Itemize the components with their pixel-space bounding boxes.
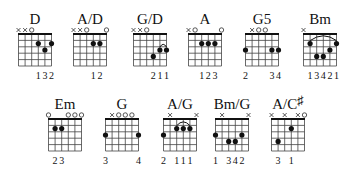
- finger-dot-icon: [243, 47, 248, 52]
- finger-numbers: 13421: [292, 71, 348, 83]
- finger-numbers: 1342: [204, 156, 260, 168]
- finger-number: 1: [287, 156, 295, 166]
- muted-string-icon: [302, 28, 306, 32]
- finger-dot-icon: [308, 41, 313, 46]
- finger-number: 2: [48, 71, 56, 81]
- finger-dot-icon: [276, 47, 281, 52]
- open-string-icon: [193, 28, 197, 32]
- finger-dot-icon: [164, 47, 169, 52]
- fretboard-grid: [37, 85, 93, 165]
- finger-dot-icon: [36, 41, 41, 46]
- fretboard-grid: [122, 0, 178, 80]
- finger-number: 3: [211, 71, 219, 81]
- chord-d: D132: [7, 0, 63, 80]
- open-string-icon: [30, 28, 34, 32]
- muted-string-icon: [23, 28, 27, 32]
- muted-string-icon: [78, 28, 82, 32]
- open-string-icon: [46, 113, 50, 117]
- finger-numbers: 34: [94, 156, 150, 168]
- finger-dot-icon: [53, 126, 58, 131]
- finger-dot-icon: [334, 41, 339, 46]
- fretboard-grid: [7, 0, 63, 80]
- muted-string-icon: [72, 28, 76, 32]
- finger-number: 2: [96, 71, 104, 81]
- chord-bm-g: Bm/G1342: [204, 85, 260, 165]
- open-string-icon: [130, 113, 134, 117]
- fretboard-grid: [292, 0, 348, 80]
- finger-dot-icon: [97, 41, 102, 46]
- chord-g5: G5234: [234, 0, 290, 80]
- fretboard-grid: [62, 0, 118, 80]
- finger-numbers: 12: [62, 71, 118, 83]
- finger-dot-icon: [226, 139, 231, 144]
- finger-numbers: 234: [234, 71, 290, 83]
- finger-number: 3: [102, 156, 110, 166]
- finger-dot-icon: [157, 47, 162, 52]
- finger-numbers: 211: [122, 71, 178, 83]
- open-string-icon: [123, 113, 127, 117]
- finger-number: 4: [135, 156, 143, 166]
- muted-string-icon: [247, 113, 251, 117]
- finger-dot-icon: [174, 126, 179, 131]
- muted-string-icon: [270, 113, 274, 117]
- finger-numbers: 31: [260, 156, 316, 168]
- finger-number: 1: [212, 156, 220, 166]
- finger-dot-icon: [161, 132, 166, 137]
- fretboard-grid: [177, 0, 233, 80]
- chord-a-d: A/D12: [62, 0, 118, 80]
- finger-dot-icon: [136, 132, 141, 137]
- finger-dot-icon: [233, 139, 238, 144]
- finger-dot-icon: [289, 126, 294, 131]
- muted-string-icon: [138, 28, 142, 32]
- open-string-icon: [117, 113, 121, 117]
- finger-number: 1: [333, 71, 341, 81]
- fretboard-grid: [94, 85, 150, 165]
- finger-dot-icon: [59, 126, 64, 131]
- finger-dot-icon: [213, 132, 218, 137]
- finger-number: 3: [274, 156, 282, 166]
- chord-em: Em23: [37, 85, 93, 165]
- finger-number: 2: [160, 156, 168, 166]
- muted-string-icon: [17, 28, 21, 32]
- finger-dot-icon: [321, 54, 326, 59]
- open-string-icon: [66, 113, 70, 117]
- finger-dot-icon: [187, 126, 192, 131]
- finger-dot-icon: [91, 41, 96, 46]
- finger-dot-icon: [151, 54, 156, 59]
- finger-numbers: 123: [177, 71, 233, 83]
- chord-a-g: A/G2111: [152, 85, 208, 165]
- finger-number: 2: [242, 71, 250, 81]
- finger-numbers: 2111: [152, 156, 208, 168]
- finger-numbers: 23: [37, 156, 93, 168]
- chord-g: G34: [94, 85, 150, 165]
- finger-dot-icon: [269, 47, 274, 52]
- chord-a-c-: A/C♯31: [260, 85, 316, 165]
- open-string-icon: [219, 28, 223, 32]
- open-string-icon: [73, 113, 77, 117]
- finger-dot-icon: [49, 41, 54, 46]
- finger-numbers: 132: [7, 71, 63, 83]
- finger-dot-icon: [199, 41, 204, 46]
- chord-a: A123: [177, 0, 233, 80]
- finger-dot-icon: [327, 47, 332, 52]
- fretboard-grid: [260, 85, 316, 165]
- finger-dot-icon: [181, 126, 186, 131]
- muted-string-icon: [296, 113, 300, 117]
- muted-string-icon: [187, 28, 191, 32]
- open-string-icon: [85, 28, 89, 32]
- finger-number: 4: [275, 71, 283, 81]
- muted-string-icon: [168, 113, 172, 117]
- muted-string-icon: [110, 113, 114, 117]
- muted-string-icon: [220, 113, 224, 117]
- finger-number: 3: [58, 156, 66, 166]
- open-string-icon: [257, 28, 261, 32]
- chord-g-d: G/D211: [122, 0, 178, 80]
- fretboard-grid: [234, 0, 290, 80]
- muted-string-icon: [195, 113, 199, 117]
- open-string-icon: [145, 28, 149, 32]
- finger-dot-icon: [212, 41, 217, 46]
- open-string-icon: [263, 28, 267, 32]
- finger-dot-icon: [276, 139, 281, 144]
- finger-number: 1: [163, 71, 171, 81]
- fretboard-grid: [152, 85, 208, 165]
